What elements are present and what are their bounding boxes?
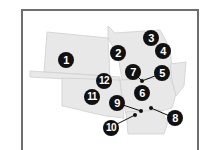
state-shape-arkansas <box>126 110 168 134</box>
marker-11[interactable]: 11 <box>84 89 100 105</box>
marker-5[interactable]: 5 <box>154 65 170 81</box>
marker-12[interactable]: 12 <box>96 73 112 89</box>
state-shape-west <box>44 32 110 76</box>
marker-6[interactable]: 6 <box>134 85 150 101</box>
marker-10[interactable]: 10 <box>103 120 119 136</box>
marker-1[interactable]: 1 <box>58 52 74 68</box>
marker-9[interactable]: 9 <box>109 95 125 111</box>
marker-8[interactable]: 8 <box>167 110 183 126</box>
marker-7[interactable]: 7 <box>125 64 141 80</box>
marker-3[interactable]: 3 <box>143 30 159 46</box>
marker-2[interactable]: 2 <box>110 45 126 61</box>
marker-4[interactable]: 4 <box>155 43 171 59</box>
